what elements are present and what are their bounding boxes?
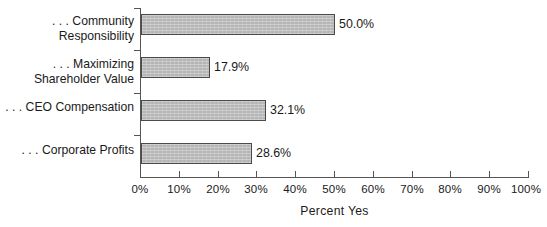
x-axis-tick: [412, 171, 413, 178]
y-axis-tick: [134, 8, 140, 9]
bar-chart: . . . Community Responsibility 50.0% . .…: [0, 0, 547, 227]
bar-segment: [141, 143, 252, 164]
x-axis-tick: [218, 171, 219, 178]
x-axis-tick-label: 80%: [438, 183, 462, 195]
bar-row: . . . CEO Compensation 32.1%: [0, 98, 547, 138]
bar-value-label: 50.0%: [339, 17, 374, 31]
bar-segment: [141, 100, 266, 121]
x-axis-tick: [334, 171, 335, 178]
bar-value-label: 17.9%: [214, 60, 249, 74]
x-axis-tick-label: 60%: [361, 183, 385, 195]
x-axis-tick: [528, 171, 529, 178]
bar-row: . . . Community Responsibility 50.0%: [0, 12, 547, 52]
category-label: . . . CEO Compensation: [0, 100, 134, 115]
x-axis-tick-label: 30%: [244, 183, 268, 195]
bar-row: . . . Maximizing Shareholder Value 17.9%: [0, 55, 547, 95]
x-axis-tick: [450, 171, 451, 178]
category-label: . . . Corporate Profits: [0, 143, 134, 158]
bar-segment: [141, 14, 335, 35]
bar-row: . . . Corporate Profits 28.6%: [0, 141, 547, 181]
x-axis-tick-label: 100%: [511, 183, 541, 195]
bar-value-label: 28.6%: [256, 146, 291, 160]
x-axis-tick-label: 0%: [131, 183, 148, 195]
x-axis-tick-label: 40%: [283, 183, 307, 195]
x-axis-tick: [140, 171, 141, 178]
x-axis-tick-label: 70%: [400, 183, 424, 195]
bar-value-label: 32.1%: [270, 103, 305, 117]
x-axis-tick-label: 50%: [322, 183, 346, 195]
category-label: . . . Community Responsibility: [0, 14, 134, 44]
x-axis-tick: [179, 171, 180, 178]
x-axis-tick-label: 20%: [206, 183, 230, 195]
x-axis-tick: [256, 171, 257, 178]
x-axis-tick: [295, 171, 296, 178]
x-axis-tick: [373, 171, 374, 178]
bar-segment: [141, 57, 210, 78]
x-axis-tick: [489, 171, 490, 178]
x-axis-tick-label: 90%: [477, 183, 501, 195]
x-axis-title: Percent Yes: [140, 204, 529, 218]
x-axis-tick-label: 10%: [167, 183, 191, 195]
category-label: . . . Maximizing Shareholder Value: [0, 57, 134, 87]
